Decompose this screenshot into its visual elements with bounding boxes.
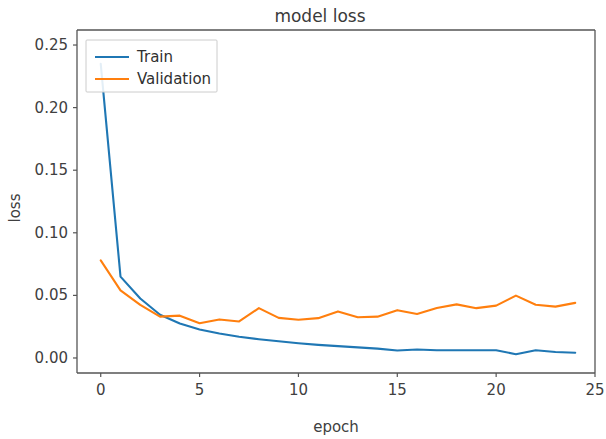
y-tick-label: 0.05	[35, 286, 68, 304]
y-tick-label: 0.25	[35, 36, 68, 54]
y-tick-label: 0.20	[35, 99, 68, 117]
chart-legend[interactable]: Train Validation	[86, 40, 217, 92]
x-axis-label: epoch	[313, 418, 359, 436]
y-tick-label: 0.00	[35, 349, 68, 367]
chart-title: model loss	[274, 6, 365, 26]
legend-label-train: Train	[136, 48, 173, 66]
y-tick-label: 0.10	[35, 224, 68, 242]
x-tick-label: 20	[487, 381, 506, 399]
x-tick-label: 0	[96, 381, 106, 399]
model-loss-line-chart: model loss 0.000.050.100.150.200.25 0510…	[0, 0, 606, 439]
matplotlib-figure: model loss 0.000.050.100.150.200.25 0510…	[0, 0, 606, 439]
x-tick-label: 5	[195, 381, 205, 399]
x-tick-label: 15	[388, 381, 407, 399]
y-axis-label: loss	[6, 193, 24, 222]
y-tick-label: 0.15	[35, 161, 68, 179]
legend-label-validation: Validation	[137, 70, 211, 88]
x-tick-label: 25	[585, 381, 604, 399]
x-tick-label: 10	[289, 381, 308, 399]
